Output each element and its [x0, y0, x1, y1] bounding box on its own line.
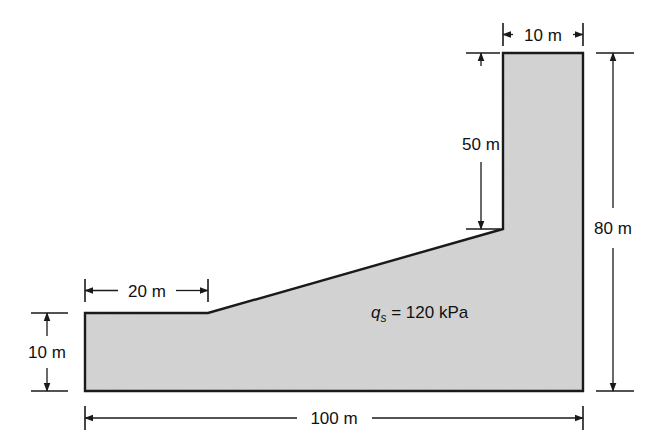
embankment-body [85, 53, 583, 391]
dimension-label-top-width: 10 m [524, 26, 562, 45]
dimension-label-toe-height: 10 m [28, 343, 66, 362]
figure-canvas: 10 m 50 m 80 m 20 m [0, 0, 665, 446]
embankment-diagram: 10 m 50 m 80 m 20 m [0, 0, 665, 446]
dimension-label-bench-width: 20 m [128, 282, 166, 301]
svg-text:qs = 120 kPa: qs = 120 kPa [371, 303, 469, 325]
dimension-base-width: 100 m [85, 406, 583, 430]
load-value: 120 kPa [406, 303, 469, 322]
load-equals: = [386, 303, 405, 322]
dimension-label-base-width: 100 m [310, 409, 357, 428]
dimension-label-total-height: 80 m [594, 219, 632, 238]
dimension-bench-width: 20 m [85, 279, 208, 302]
dimension-label-column-height: 50 m [462, 135, 500, 154]
dimension-total-height: 80 m [594, 53, 634, 391]
dimension-top-width: 10 m [503, 23, 583, 46]
dimension-toe-height: 10 m [28, 313, 68, 391]
surcharge-load-label: qs = 120 kPa [371, 303, 469, 325]
dimension-column-height: 50 m [462, 53, 500, 229]
